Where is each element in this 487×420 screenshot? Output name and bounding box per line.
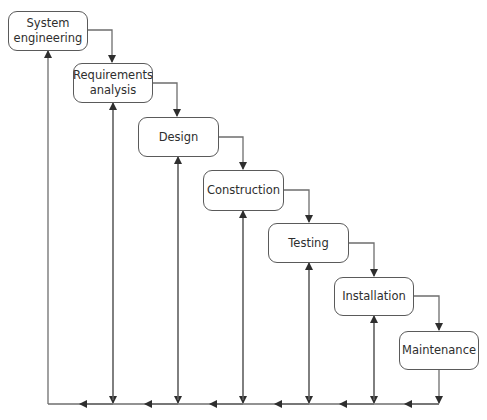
forward-arrow-4 [283, 190, 309, 222]
forward-arrow-5 [348, 243, 374, 276]
stage-testing: Testing [268, 223, 349, 263]
stage-maintenance: Maintenance [399, 331, 479, 370]
stage-requirements-analysis: Requirements analysis [73, 63, 153, 103]
forward-arrow-2 [152, 83, 177, 116]
stage-system-engineering: System engineering [8, 11, 88, 51]
stage-installation: Installation [334, 277, 414, 316]
forward-arrow-1 [87, 30, 112, 62]
stage-design: Design [138, 117, 219, 157]
forward-arrow-6 [413, 296, 439, 330]
stage-construction: Construction [203, 170, 284, 211]
forward-arrow-3 [218, 137, 243, 169]
